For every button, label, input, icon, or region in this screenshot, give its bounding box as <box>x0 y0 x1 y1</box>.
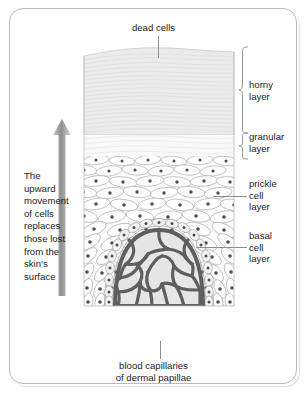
basal-cell-layer-label: basal cell layer <box>249 230 272 265</box>
horny-layer-region <box>84 48 234 135</box>
dead-cells-label: dead cells <box>0 22 307 34</box>
granular-layer-bracket <box>238 132 249 160</box>
basal-cell-layer-leader-line <box>196 247 247 248</box>
prickle-cell-layer-label: prickle cell layer <box>249 178 277 213</box>
blood-capillaries-caption: blood capillaries of dermal papillae <box>0 360 307 383</box>
granular-layer-label: granular layer <box>249 131 284 154</box>
capillaries-leader-line <box>160 341 161 359</box>
granular-layer-region <box>84 135 234 157</box>
figure-canvas: dead cells horny layer granular layer pr… <box>0 0 307 394</box>
horny-layer-bracket <box>238 46 249 134</box>
prickle-cell-layer-leader-line <box>213 196 247 197</box>
upward-movement-description: The upward movement of cells replaces th… <box>24 170 82 283</box>
dead-cells-leader-line <box>158 36 159 58</box>
horny-layer-label: horny layer <box>249 79 273 102</box>
skin-cross-section-diagram <box>82 40 237 345</box>
